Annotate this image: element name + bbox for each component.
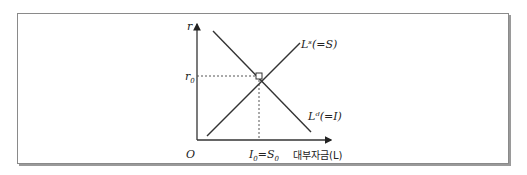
origin-label: O <box>186 148 195 161</box>
loanable-funds-diagram: r O r0 I0=S0 대부자금(L) Lˢ(=S) Lᵈ(=I) <box>0 0 527 175</box>
supply-curve-label: Lˢ(=S) <box>300 38 337 51</box>
x-axis-label: 대부자금(L) <box>293 150 342 161</box>
r0-label: r0 <box>185 70 195 85</box>
y-axis-label: r <box>187 20 193 33</box>
supply-curve <box>207 43 300 136</box>
equilibrium-point <box>256 73 262 79</box>
i0-s0-label: I0=S0 <box>248 148 280 163</box>
demand-curve-label: Lᵈ(=I) <box>307 110 342 123</box>
